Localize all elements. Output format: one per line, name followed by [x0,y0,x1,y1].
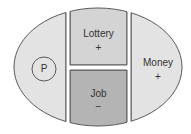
lottery-sign: + [70,42,127,53]
job-label: Job [70,88,127,99]
person-label: P [32,63,56,74]
money-label: Money [136,57,180,68]
balance-diagram: P Lottery + Job − Money + [0,0,191,134]
job-sign: − [70,101,127,112]
lottery-label: Lottery [70,28,127,39]
money-sign: + [136,71,180,82]
